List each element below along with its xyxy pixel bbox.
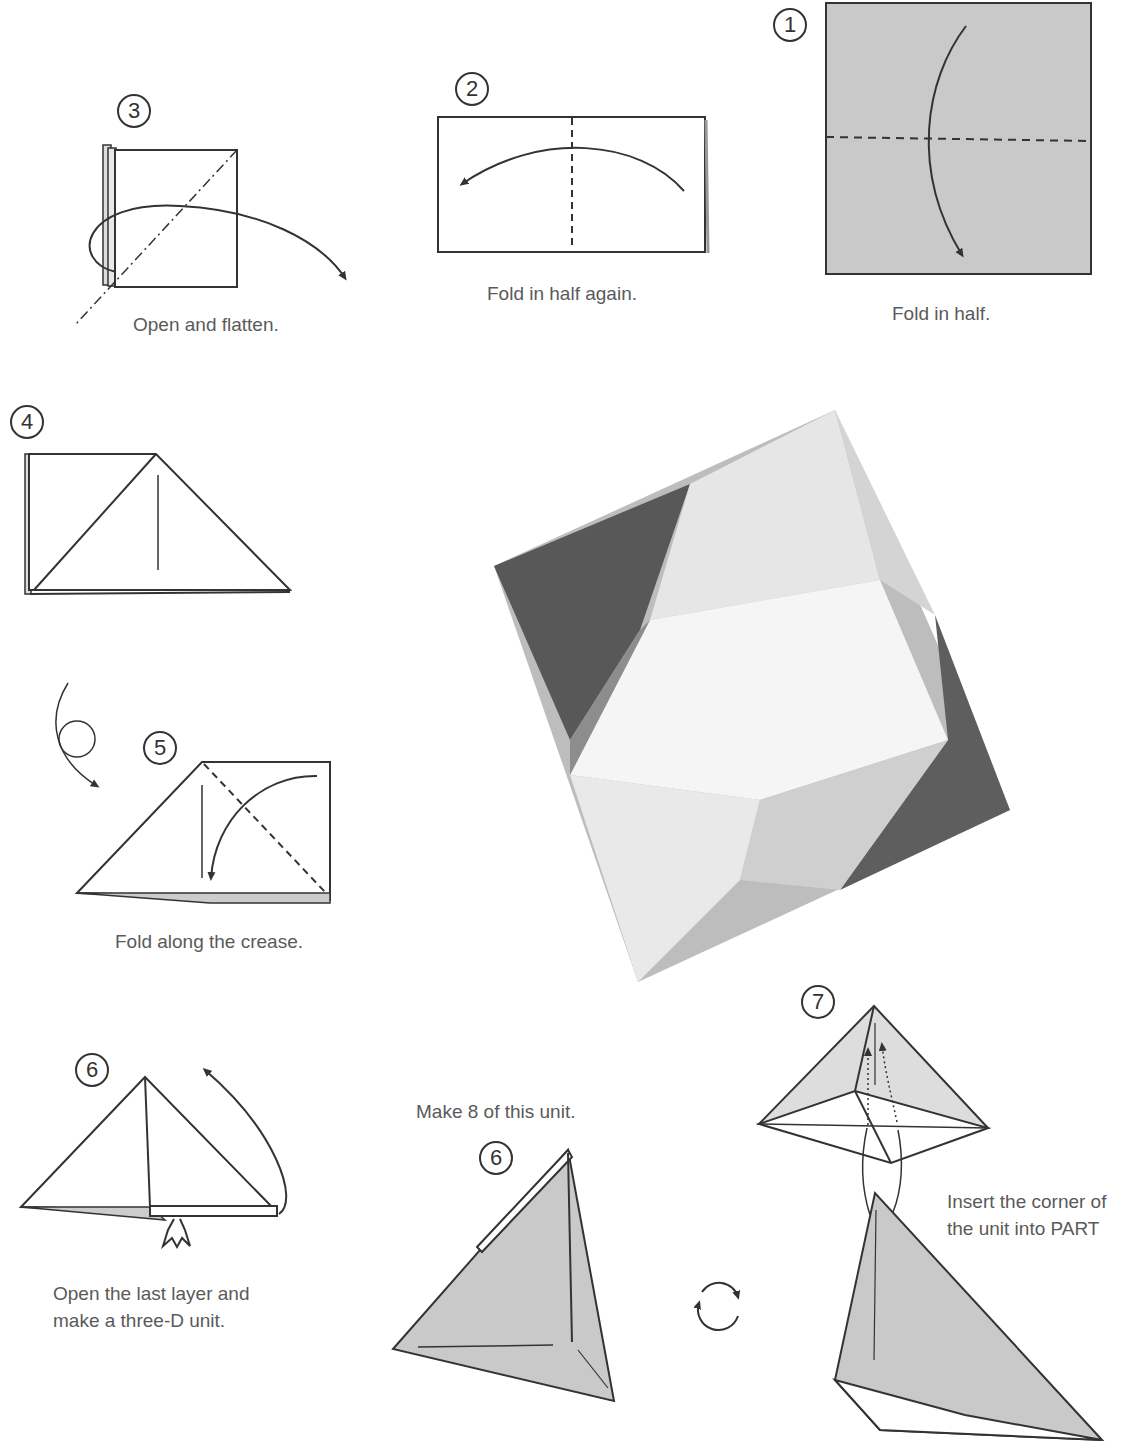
- caption-step-6a-line2: make a three-D unit.: [53, 1309, 225, 1333]
- step-number-1: 1: [773, 8, 807, 42]
- step-2-diagram: [438, 117, 708, 253]
- step-5-diagram: [56, 683, 330, 903]
- step-1-diagram: [826, 3, 1091, 274]
- rotate-icon: [698, 1283, 738, 1330]
- step-number-6b: 6: [479, 1141, 513, 1175]
- caption-step-2: Fold in half again.: [487, 282, 637, 306]
- step-number-3: 3: [117, 94, 151, 128]
- step-number-6a: 6: [75, 1053, 109, 1087]
- step-6b-diagram: [393, 1150, 614, 1401]
- caption-step-7-line2: the unit into PART: [947, 1217, 1099, 1241]
- step-number-5: 5: [143, 731, 177, 765]
- caption-make-units: Make 8 of this unit.: [416, 1100, 575, 1124]
- step-number-7: 7: [801, 985, 835, 1019]
- caption-step-6a-line1: Open the last layer and: [53, 1282, 249, 1306]
- open-arrow-icon: [163, 1219, 190, 1247]
- step-6a-diagram: [21, 1070, 286, 1247]
- caption-step-7-line1: Insert the corner of: [947, 1190, 1106, 1214]
- caption-step-1: Fold in half.: [892, 302, 990, 326]
- step-number-2: 2: [455, 72, 489, 106]
- octahedron-photo: [494, 410, 1010, 982]
- caption-step-3: Open and flatten.: [133, 313, 279, 337]
- step-number-4: 4: [10, 405, 44, 439]
- step-3-diagram: [75, 145, 345, 325]
- step-4-diagram: [25, 454, 290, 594]
- caption-step-5: Fold along the crease.: [115, 930, 303, 954]
